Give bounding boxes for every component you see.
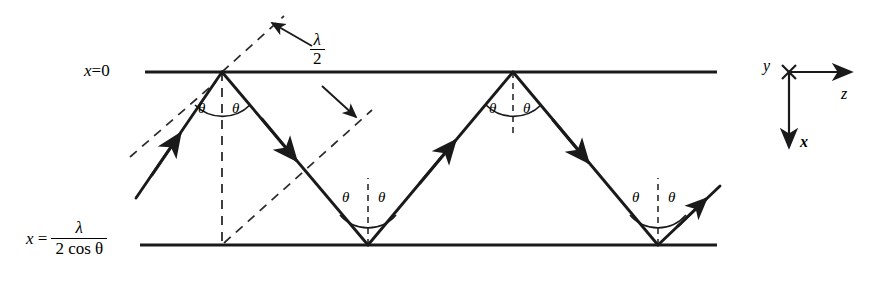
axis-label-z: z [841, 86, 847, 102]
half-lambda-denominator: 2 [310, 50, 325, 68]
diagram-canvas [0, 0, 872, 285]
angle-label-bottom1-right: θ [378, 189, 385, 206]
half-lambda-arrow-lower [322, 86, 356, 117]
axis-label-x: x [800, 134, 808, 150]
top-boundary-label-value: 0 [101, 61, 110, 80]
bottom-boundary-numerator: λ [72, 219, 87, 238]
bottom-boundary-denominator: 2 cos θ [51, 239, 107, 258]
ray-exit-arrow [678, 199, 706, 226]
angle-label-top2-right: θ [523, 100, 530, 117]
bottom-boundary-label-lead: x = [26, 230, 47, 247]
axis-label-y: y [763, 58, 770, 74]
bottom-boundary-fraction: λ2 cos θ [51, 219, 107, 258]
ray-segment-3-arrow [553, 120, 588, 162]
ray-path [136, 72, 720, 245]
half-lambda-fraction: λ2 [310, 31, 325, 68]
half-lambda-arrow-upper [272, 23, 312, 46]
bottom-boundary-label-variable: x [26, 229, 34, 248]
angle-arcs [195, 105, 686, 228]
top-boundary-label-variable: x [84, 61, 92, 80]
ray-diagram-figure: x=0 x =λ2 cos θ λ2 θ θ θ θ θ θ θ θ y z x [0, 0, 872, 285]
bottom-boundary-label: x =λ2 cos θ [26, 219, 107, 258]
ray-segment-2-arrow [420, 141, 455, 183]
half-lambda-numerator: λ [311, 31, 324, 49]
bottom-boundary-label-equals: = [38, 229, 48, 248]
ray-incoming-arrow [152, 134, 180, 175]
axes-key [782, 65, 851, 147]
top-boundary-label: x=0 [84, 62, 110, 79]
angle-label-bottom2-right: θ [668, 189, 675, 206]
angle-label-bottom1-left: θ [342, 189, 349, 206]
angle-label-top1-left: θ [198, 100, 205, 117]
angle-label-top2-left: θ [489, 100, 496, 117]
half-lambda-label: λ2 [310, 31, 325, 68]
top-boundary-label-equals: = [92, 61, 102, 80]
angle-label-top1-right: θ [232, 100, 239, 117]
angle-label-bottom2-left: θ [632, 189, 639, 206]
boundary-planes [140, 72, 717, 245]
ray-segment-1-arrow [262, 119, 296, 160]
